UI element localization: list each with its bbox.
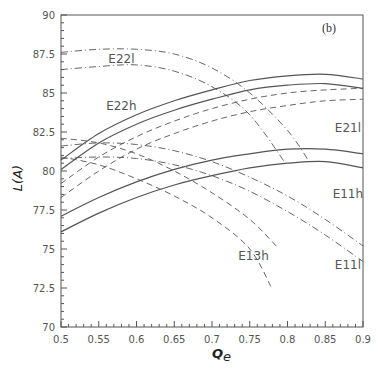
x-tick-label: 0.9 — [355, 334, 371, 345]
x-tick-label: 0.8 — [280, 334, 296, 345]
data-curves — [61, 49, 363, 290]
x-axis-title-main: Q — [212, 346, 223, 361]
panel-label: (b) — [322, 21, 336, 35]
curve-label-e22h: E22h — [106, 99, 136, 113]
x-axis-title: Q e — [212, 346, 231, 364]
y-tick-label: 75 — [42, 244, 55, 255]
curve-label-e21l: E21l — [335, 121, 361, 135]
x-tick-label: 0.7 — [204, 334, 220, 345]
curve-e11h-upper — [61, 149, 363, 217]
y-tick-label: 72.5 — [33, 283, 55, 294]
y-tick-label: 85 — [42, 88, 55, 99]
curve-label-e22l: E22l — [108, 52, 134, 66]
x-tick-label: 0.75 — [239, 334, 261, 345]
y-tick-label: 90 — [42, 10, 55, 21]
y-tick-label: 87.5 — [33, 49, 55, 60]
curve-e13h-lower — [61, 157, 272, 290]
x-tick-label: 0.65 — [163, 334, 185, 345]
y-tick-label: 82.5 — [33, 127, 55, 138]
curve-e22h-lower — [61, 83, 363, 169]
y-axis-title: L(A) — [10, 165, 25, 191]
curve-e22l-upper — [61, 49, 310, 163]
curve-label-e11h: E11h — [333, 187, 363, 201]
y-tick-label: 77.5 — [33, 205, 55, 216]
plot-border — [61, 15, 363, 327]
curve-labels: E22lE22hE21lE11hE13hE11l — [106, 52, 363, 272]
line-chart: 0.50.550.60.650.70.750.80.850.97072.5757… — [0, 0, 380, 373]
y-tick-label: 70 — [42, 322, 55, 333]
y-tick-label: 80 — [42, 166, 55, 177]
x-axis-title-subscript: e — [223, 349, 231, 364]
x-tick-label: 0.85 — [314, 334, 336, 345]
y-axis-title-text: L(A) — [10, 165, 25, 191]
curve-e11h-lower — [61, 161, 363, 231]
x-tick-label: 0.5 — [53, 334, 69, 345]
x-tick-label: 0.6 — [129, 334, 145, 345]
curve-label-e13h: E13h — [238, 249, 268, 263]
curve-label-e11l: E11l — [335, 258, 361, 272]
plot-frame — [61, 15, 363, 327]
x-tick-label: 0.55 — [88, 334, 110, 345]
